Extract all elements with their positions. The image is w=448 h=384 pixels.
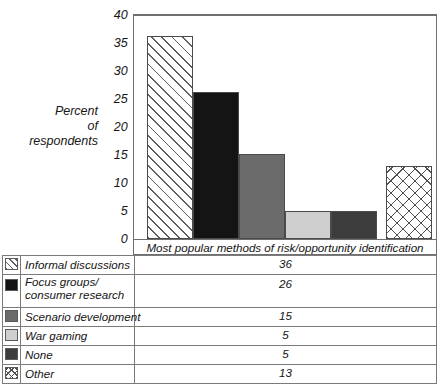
legend-value-other: 13	[135, 365, 437, 384]
y-tick-35: 35	[96, 37, 128, 49]
y-tick-40: 40	[96, 9, 128, 21]
legend-label-war-gaming: War gaming	[21, 327, 135, 346]
bar-series	[134, 15, 436, 239]
legend-swatch-cell	[3, 365, 21, 384]
legend-value-war-gaming: 5	[135, 327, 437, 346]
y-tick-0: 0	[96, 233, 128, 245]
legend-swatch-cell	[3, 275, 21, 308]
table-row: None 5	[3, 346, 437, 365]
solid-light-gray-swatch-icon	[5, 329, 18, 341]
y-tick-15: 15	[96, 149, 128, 161]
y-tick-30: 30	[96, 65, 128, 77]
table-row: Scenario development 15	[3, 308, 437, 327]
y-axis-ticks: 40 35 30 25 20 15 10 5 0	[96, 0, 128, 255]
legend-value-none: 5	[135, 346, 437, 365]
bar-focus-groups	[193, 92, 239, 239]
bar-other	[386, 166, 432, 240]
x-axis-caption-text: Most popular methods of risk/opportunity…	[146, 241, 423, 254]
legend-value-informal-discussions: 36	[135, 256, 437, 275]
bar-chart: Percent of respondents 40 35 30 25 20 15…	[0, 0, 448, 255]
bar-scenario-development	[239, 154, 285, 239]
solid-black-swatch-icon	[5, 279, 18, 291]
legend-label-informal-discussions: Informal discussions	[21, 256, 135, 275]
table-row: War gaming 5	[3, 327, 437, 346]
legend-swatch-cell	[3, 327, 21, 346]
y-axis-title: Percent of respondents	[14, 104, 98, 149]
solid-dark-gray-swatch-icon	[5, 348, 18, 360]
legend-swatch-cell	[3, 256, 21, 275]
y-axis-title-line-3: respondents	[14, 134, 98, 149]
bar-informal-discussions	[147, 36, 193, 239]
bar-war-gaming	[285, 211, 331, 239]
diagonal-hatch-swatch-icon	[5, 258, 18, 270]
legend-label-focus-groups: Focus groups/ consumer research	[21, 275, 135, 308]
solid-medium-gray-swatch-icon	[5, 310, 18, 322]
y-tick-25: 25	[96, 93, 128, 105]
legend-label-line-1: Focus groups/	[25, 276, 134, 289]
y-tick-10: 10	[96, 177, 128, 189]
legend-label-other: Other	[21, 365, 135, 384]
y-axis-title-line-2: of	[14, 119, 98, 134]
y-tick-20: 20	[96, 121, 128, 133]
x-axis-caption: Most popular methods of risk/opportunity…	[133, 240, 437, 255]
legend-label-scenario-development: Scenario development	[21, 308, 135, 327]
table-row: Other 13	[3, 365, 437, 384]
crosshatch-swatch-icon	[5, 367, 18, 379]
legend-swatch-cell	[3, 346, 21, 365]
legend-label-line-2: consumer research	[25, 289, 134, 302]
legend-data-table: Informal discussions 36 Focus groups/ co…	[2, 255, 437, 384]
legend-value-scenario-development: 15	[135, 308, 437, 327]
bar-none	[331, 211, 377, 239]
legend-value-focus-groups: 26	[135, 275, 437, 308]
table-row: Informal discussions 36	[3, 256, 437, 275]
legend-swatch-cell	[3, 308, 21, 327]
table-row: Focus groups/ consumer research 26	[3, 275, 437, 308]
legend-label-none: None	[21, 346, 135, 365]
y-tick-5: 5	[96, 205, 128, 217]
y-axis-title-line-1: Percent	[14, 104, 98, 119]
